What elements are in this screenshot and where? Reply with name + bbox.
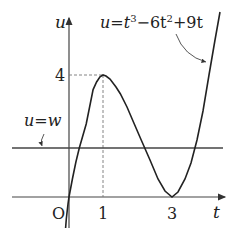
tick-label-t1: 1 <box>98 204 108 223</box>
u-axis-label: u <box>55 12 66 32</box>
tick-label-u4: 4 <box>55 66 65 85</box>
t-axis-label: t <box>213 202 220 222</box>
tick-label-t3: 3 <box>167 204 177 223</box>
curve-equation-label: u=t3−6t2+9t <box>100 13 203 32</box>
cubic-curve <box>66 12 220 228</box>
graph-canvas: u t O 1 3 4 u=t3−6t2+9t u=w <box>0 0 238 244</box>
line-equation-label: u=w <box>24 111 62 130</box>
line-label-pointer <box>41 134 44 146</box>
origin-label: O <box>52 204 65 223</box>
curve-label-pointer <box>176 34 206 62</box>
